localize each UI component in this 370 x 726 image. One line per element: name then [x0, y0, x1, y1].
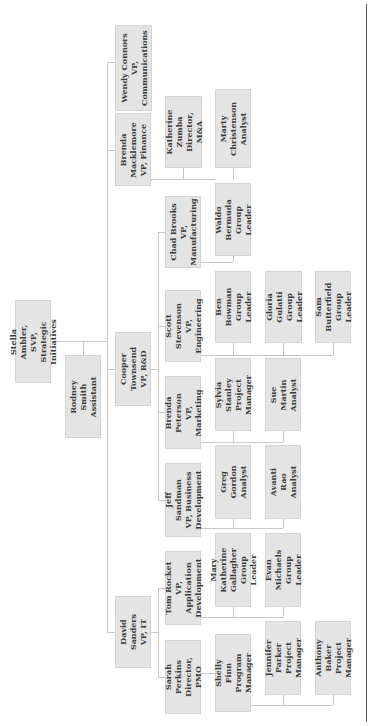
org-node-chad: Chad Brooks VP, Manufacturing	[165, 196, 201, 268]
org-node-label: Tom Rocket VP, Application Development	[163, 559, 203, 618]
org-node-label: Gloria Gulatti Group Leader	[264, 291, 304, 322]
connector-line	[233, 519, 234, 528]
connector-line	[158, 588, 159, 677]
org-node-brendap: Brenda Peterson VP, Marketing	[165, 376, 201, 449]
org-node-jeff: Jeff Sandman VP, Business Development	[165, 463, 201, 537]
org-node-label: Sue Martin Analyst	[268, 378, 298, 411]
connector-line	[333, 343, 334, 355]
org-node-jennifer: Jennifer Parker Project Manager	[265, 621, 301, 695]
page-border-line	[366, 4, 367, 722]
connector-line	[283, 607, 284, 617]
org-node-label: Sylvia Stanley Project Manager	[213, 375, 253, 415]
org-node-label: Brenda Macklemore VP, Finance	[118, 122, 148, 178]
connector-line	[107, 632, 115, 633]
connector-line	[201, 528, 283, 529]
connector-line	[201, 355, 333, 356]
org-node-evan: Evan Michaels Group Leader	[265, 533, 301, 607]
connector-line	[151, 179, 216, 180]
org-node-label: Brenda Peterson VP, Marketing	[163, 389, 203, 436]
connector-line	[233, 256, 234, 262]
connector-line	[283, 519, 284, 528]
org-node-label: Sam Butterfield Group Leader	[313, 283, 353, 332]
connector-line	[201, 442, 283, 443]
org-node-label: Marty Christenson Analyst	[218, 101, 248, 155]
connector-line	[107, 369, 115, 370]
org-node-anthony: Anthony Baker Project Manager	[315, 621, 351, 695]
org-node-label: Jennifer Parker Project Manager	[263, 638, 303, 678]
org-node-label: Katherine Zumba Director, M&A	[164, 110, 204, 155]
connector-line	[283, 431, 284, 442]
connector-line	[151, 180, 152, 181]
org-node-sarah: Sarah Perkins Director, PMO	[165, 640, 201, 714]
connector-line	[283, 695, 284, 705]
org-node-ben: Ben Bowman Group Leader	[215, 271, 251, 343]
org-node-label: Ben Bowman Group Leader	[213, 288, 253, 326]
org-node-wendy: Wendy Connors VP, Communications	[115, 25, 152, 111]
org-node-label: Greg Gordon Analyst	[218, 465, 248, 498]
org-node-label: Wendy Connors VP, Communications	[119, 30, 149, 106]
org-node-label: Chad Brooks VP, Manufacturing	[168, 198, 198, 265]
org-node-marty: Marty Christenson Analyst	[215, 89, 251, 168]
org-node-label: Rodney Smith Assistant	[68, 376, 98, 417]
org-node-label: Scott Stevenson VP, Engineering	[163, 298, 203, 353]
connector-line	[183, 168, 184, 179]
connector-line	[158, 232, 159, 500]
org-node-sylvia: Sylvia Stanley Project Manager	[215, 358, 251, 431]
connector-line	[333, 695, 334, 705]
connector-line	[151, 369, 158, 370]
connector-line	[283, 343, 284, 355]
org-node-tom: Tom Rocket VP, Application Development	[165, 551, 201, 625]
org-node-label: Evan Michaels Group Leader	[263, 550, 303, 590]
connector-line	[201, 262, 233, 263]
org-node-waldo: Waldo Bermuda Group Leader	[215, 183, 251, 256]
connector-line	[151, 632, 158, 633]
org-node-cooper: Cooper Townsend VP, R&D	[115, 332, 151, 406]
org-node-scott: Scott Stevenson VP, Engineering	[165, 290, 201, 362]
org-node-sue: Sue Martin Analyst	[265, 358, 301, 431]
org-node-label: Anthony Baker Project Manager	[313, 638, 353, 678]
connector-line	[233, 431, 234, 442]
connector-line	[107, 150, 115, 151]
connector-line	[201, 617, 283, 618]
org-node-sam: Sam Butterfield Group Leader	[315, 271, 351, 343]
org-node-mary: Mary Katherine Gallagher Group Leader	[215, 533, 251, 607]
connector-line	[158, 232, 165, 233]
org-node-label: Cooper Townsend VP, R&D	[118, 347, 148, 391]
org-node-david: David Sanders VP, IT	[115, 596, 151, 668]
connector-line	[51, 341, 107, 342]
connector-line	[107, 62, 108, 632]
connector-line	[233, 168, 234, 179]
org-node-avanti: Avanti Rao Analyst	[265, 445, 301, 519]
org-node-shelly: Shelly Finn Program Manager	[215, 634, 251, 712]
org-node-label: David Sanders VP, IT	[118, 614, 148, 650]
org-node-gloria: Gloria Gulatti Group Leader	[265, 271, 302, 343]
org-node-stella: Stella Ambler, SVP, Strategic Initiative…	[15, 300, 51, 383]
org-node-label: Waldo Bermuda Group Leader	[213, 199, 253, 240]
org-node-greg: Greg Gordon Analyst	[215, 445, 251, 519]
org-node-label: Mary Katherine Gallagher Group Leader	[208, 548, 258, 593]
org-node-katherine: Katherine Zumba Director, M&A	[165, 96, 202, 168]
connector-line	[83, 341, 84, 355]
org-chart: Stella Ambler, SVP, Strategic Initiative…	[0, 0, 370, 726]
org-node-brendam: Brenda Macklemore VP, Finance	[115, 113, 151, 186]
org-node-label: Avanti Rao Analyst	[268, 465, 298, 498]
connector-line	[233, 343, 234, 355]
org-node-label: Jeff Sandman VP, Business Development	[163, 471, 203, 530]
connector-line	[233, 607, 234, 617]
org-node-label: Stella Ambler, SVP, Strategic Initiative…	[8, 319, 58, 364]
org-node-label: Sarah Perkins Director, PMO	[163, 657, 203, 697]
org-node-rodney: Rodney Smith Assistant	[65, 355, 101, 438]
org-node-label: Shelly Finn Program Manager	[213, 653, 253, 693]
connector-line	[107, 62, 115, 63]
connector-line	[251, 705, 333, 706]
